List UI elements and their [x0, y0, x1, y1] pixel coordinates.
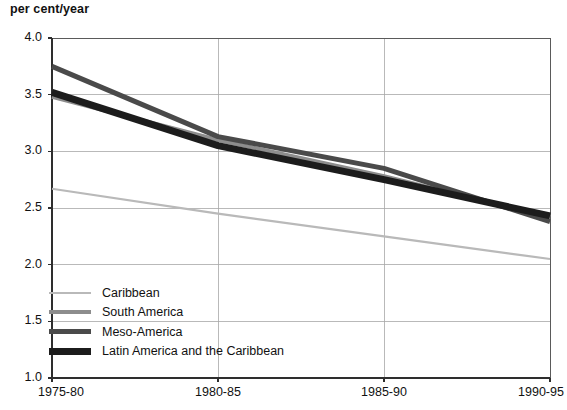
legend-item-label: Caribbean: [102, 286, 160, 300]
legend-item-label: Meso-America: [102, 325, 183, 339]
legend-item-label: Latin America and the Caribbean: [102, 344, 284, 358]
legend-item[interactable]: Latin America and the Caribbean: [49, 342, 309, 362]
legend-item[interactable]: South America: [49, 303, 309, 323]
data-series: [52, 66, 550, 259]
chart-legend: CaribbeanSouth AmericaMeso-AmericaLatin …: [49, 283, 309, 361]
legend-swatch-icon: [49, 292, 91, 294]
legend-item[interactable]: Caribbean: [49, 283, 309, 303]
legend-swatch-icon: [49, 348, 91, 355]
legend-item[interactable]: Meso-America: [49, 322, 309, 342]
chart-figure: per cent/year 1.01.52.02.53.03.54.0 1975…: [0, 0, 567, 410]
legend-swatch-icon: [49, 329, 91, 334]
legend-swatch-icon: [49, 310, 91, 314]
legend-item-label: South America: [102, 305, 183, 319]
